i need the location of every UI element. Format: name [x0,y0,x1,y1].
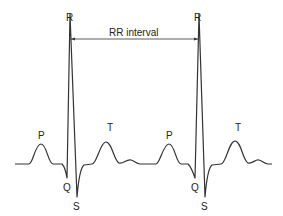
ecg-diagram: R R RR interval P T Q S P T Q S [0,0,283,216]
arrow-left-icon [71,38,75,41]
arrow-right-icon [194,38,198,41]
label-r2: R [194,12,201,23]
label-t1: T [107,122,113,133]
label-q1: Q [63,182,71,193]
label-s1: S [73,201,80,212]
label-p1: P [38,130,45,141]
label-s2: S [201,201,208,212]
label-t2: T [235,122,241,133]
label-rr-interval: RR interval [109,27,158,38]
label-r1: R [66,12,73,23]
ecg-trace [15,14,272,197]
label-p2: P [166,130,173,141]
label-q2: Q [191,182,199,193]
